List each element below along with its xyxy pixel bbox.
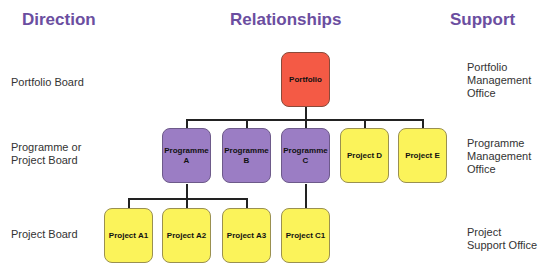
node-project-c1-label: Project C1 (286, 231, 326, 241)
support-portfolio-line3: Office (467, 87, 531, 100)
direction-programme-line1: Programme or (11, 141, 81, 154)
support-programme-office: Programme Management Office (467, 137, 531, 176)
node-project-a1-label: Project A1 (109, 231, 148, 241)
support-project-line2: Support Office (467, 239, 537, 252)
connector-to-project-a2 (186, 198, 188, 208)
node-project-d-label: Project D (347, 151, 382, 161)
node-project-a3: Project A3 (222, 208, 271, 263)
support-portfolio-line1: Portfolio (467, 61, 531, 74)
support-programme-line3: Office (467, 163, 531, 176)
support-project-line1: Project (467, 226, 537, 239)
support-portfolio-line2: Management (467, 74, 531, 87)
connector-level2-horizontal (128, 198, 248, 200)
node-programme-c-line1: Programme (283, 146, 327, 155)
support-portfolio-office: Portfolio Management Office (467, 61, 531, 100)
direction-portfolio-board: Portfolio Board (11, 76, 84, 89)
node-project-a3-label: Project A3 (227, 231, 266, 241)
node-programme-b-line1: Programme (224, 146, 268, 155)
node-project-c1: Project C1 (281, 208, 330, 263)
node-programme-b-line2: B (244, 156, 250, 165)
node-project-a2: Project A2 (162, 208, 211, 263)
support-programme-line2: Management (467, 150, 531, 163)
support-heading: Support (450, 10, 515, 30)
node-programme-a: ProgrammeA (162, 128, 211, 183)
node-project-d: Project D (340, 128, 389, 183)
node-portfolio: Portfolio (281, 52, 330, 107)
connector-to-project-a3 (246, 198, 248, 208)
node-programme-c-line2: C (303, 156, 309, 165)
connector-to-project-e (422, 119, 424, 128)
support-programme-line1: Programme (467, 137, 531, 150)
direction-project-board: Project Board (11, 228, 78, 241)
node-project-e: Project E (398, 128, 447, 183)
node-project-a1: Project A1 (104, 208, 153, 263)
node-project-e-label: Project E (405, 151, 440, 161)
node-programme-c: ProgrammeC (281, 128, 330, 183)
support-project-office: Project Support Office (467, 226, 537, 252)
connector-to-programme-c (305, 119, 307, 128)
node-project-a2-label: Project A2 (167, 231, 206, 241)
connector-to-project-d (364, 119, 366, 128)
node-programme-b: ProgrammeB (222, 128, 271, 183)
connector-to-programme-a (186, 119, 188, 128)
node-programme-a-line2: A (184, 156, 190, 165)
relationships-heading: Relationships (230, 10, 341, 30)
direction-programme-line2: Project Board (11, 154, 81, 167)
node-programme-a-line1: Programme (164, 146, 208, 155)
node-portfolio-label: Portfolio (289, 75, 322, 85)
connector-programme-c-to-c1 (305, 184, 307, 208)
direction-heading: Direction (22, 10, 96, 30)
connector-to-project-a1 (128, 198, 130, 208)
direction-programme-board: Programme or Project Board (11, 141, 81, 167)
connector-to-programme-b (246, 119, 248, 128)
